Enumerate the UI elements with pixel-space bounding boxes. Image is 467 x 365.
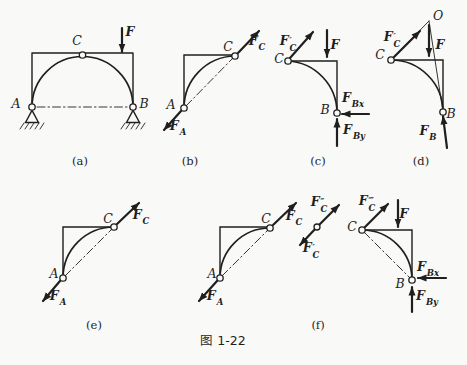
force-symbol: F (50, 290, 59, 303)
figure-b-drawing (164, 31, 259, 130)
force-sub: C (369, 205, 376, 213)
force-symbol: F (417, 261, 426, 274)
hinge-b-icon (409, 277, 415, 283)
force-subscript-stack: Bx (352, 95, 364, 109)
point-label-c: C (223, 41, 233, 54)
force-label-fbx: FBx (417, 261, 439, 275)
figure-1-22: A B C F (a) A C FA FC (b) C B F′C F FBx … (0, 0, 467, 365)
hinge-a-icon (29, 104, 35, 110)
force-label-fby: FBy (416, 290, 438, 304)
force-fb-arrow (443, 116, 447, 148)
line-of-action-dash (364, 232, 410, 278)
point-label-c: C (72, 35, 82, 48)
figure-f-left-drawing (199, 203, 296, 301)
force-symbol: F (133, 209, 142, 222)
hinge-c-icon (285, 58, 291, 64)
force-subscript-stack: C (143, 212, 150, 226)
force-sub: A (180, 129, 187, 137)
arch-curve (288, 61, 337, 113)
point-label-b: B (139, 98, 148, 111)
hinge-a-icon (60, 275, 66, 281)
force-sub: C (259, 44, 266, 52)
force-label-fa: FA (170, 120, 186, 134)
force-label-fc: FC (133, 209, 150, 223)
figure-a-drawing (20, 28, 145, 129)
force-subscript-stack: By (426, 293, 438, 307)
force-label-f: F (126, 26, 135, 39)
figure-caption: 图 1-22 (200, 335, 245, 348)
point-label-c: C (375, 49, 385, 62)
force-subscript-stack: ′C (313, 245, 320, 259)
subfigure-tag-c: (c) (310, 156, 325, 168)
force-sub: Bx (352, 101, 364, 109)
force-label-fc-prime: F′C (280, 35, 297, 49)
force-label-fc-tprime: F‴C (359, 195, 376, 209)
force-subscript-stack: ″C (321, 199, 328, 213)
point-label-c: C (103, 213, 113, 226)
force-subscript-stack: By (353, 127, 365, 141)
point-label-o: O (433, 10, 443, 23)
point-label-c-left: C (261, 213, 271, 226)
diagram-linework (0, 0, 467, 365)
force-symbol: F (359, 195, 368, 208)
arch-curve (32, 57, 133, 108)
force-label-f: F (400, 208, 409, 221)
force-subscript-stack: Bx (427, 264, 439, 278)
force-sub: C (296, 219, 303, 227)
support-a-hatching (20, 123, 44, 129)
force-sub: C (290, 45, 297, 53)
force-subscript-stack: ‴C (369, 198, 376, 212)
force-sub: A (60, 299, 67, 307)
frame-outline (32, 53, 133, 107)
force-subscript-stack: A (180, 123, 187, 137)
force-symbol: F (416, 290, 425, 303)
force-subscript-stack: A (217, 293, 224, 307)
point-label-a: A (11, 98, 20, 111)
point-label-a: A (166, 99, 175, 112)
hinge-c-icon (388, 57, 394, 63)
point-label-c: C (274, 53, 284, 66)
force-symbol: F (436, 39, 445, 52)
subfigure-tag-a: (a) (72, 156, 88, 168)
hinge-c-icon (359, 227, 365, 233)
force-label-fbx: FBx (342, 92, 364, 106)
force-subscript-stack: ′C (290, 38, 297, 52)
support-a-icon (26, 110, 39, 122)
figure-e-drawing (43, 203, 139, 301)
line-of-action-dash (186, 58, 233, 106)
force-subscript-stack: ′C (394, 34, 401, 48)
force-symbol: F (311, 196, 320, 209)
force-label-fby: FBy (343, 124, 365, 138)
force-label-fa: FA (207, 290, 223, 304)
force-label-fc-prime: F′C (303, 242, 320, 256)
force-subscript-stack: C (259, 38, 266, 52)
point-label-a: A (49, 268, 58, 281)
force-label-f: F (331, 39, 340, 52)
hinge-b-icon (130, 104, 136, 110)
subfigure-tag-f: (f) (311, 320, 324, 332)
line-of-action-dash (222, 230, 268, 276)
force-subscript-stack: A (60, 293, 67, 307)
force-sub: C (143, 218, 150, 226)
force-sub: C (321, 206, 328, 214)
hinge-a-icon (217, 275, 223, 281)
force-label-fc-dprime: F″C (311, 196, 328, 210)
force-label-fb: FB (419, 125, 436, 139)
force-symbol: F (342, 92, 351, 105)
force-subscript-stack: B (429, 128, 436, 142)
force-label-fc: FC (249, 35, 266, 49)
force-symbol: F (286, 210, 295, 223)
force-symbol: F (331, 39, 340, 52)
force-label-fa: FA (50, 290, 66, 304)
force-label-fc-prime: F′C (384, 31, 401, 45)
force-sub: Bx (427, 270, 439, 278)
subfigure-tag-b: (b) (182, 156, 198, 168)
force-symbol: F (303, 242, 312, 255)
force-symbol: F (280, 35, 289, 48)
hinge-b-icon (440, 109, 446, 115)
hinge-c-icon (232, 53, 238, 59)
hinge-c-icon (79, 52, 85, 58)
point-label-a: A (207, 268, 216, 281)
force-sub: By (353, 133, 365, 141)
hinge-a-icon (181, 105, 187, 111)
